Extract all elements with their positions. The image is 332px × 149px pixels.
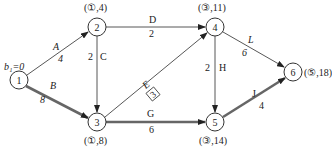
node-2: 2: [88, 18, 106, 36]
node-3-label: (①,8): [84, 135, 107, 147]
edge-C-weight: 2: [88, 51, 93, 62]
svg-text:1: 1: [17, 75, 22, 86]
edge-L-name: L: [247, 34, 254, 45]
svg-text:4: 4: [213, 22, 218, 33]
node-5-label: (③,14): [199, 135, 227, 147]
edge-G-weight: 6: [149, 124, 154, 135]
node-6: 6: [284, 63, 302, 81]
svg-text:5: 5: [213, 117, 218, 128]
edge-D-weight: 2: [149, 28, 154, 39]
edge-H-name: H: [219, 62, 226, 73]
node-4-label: (③,11): [198, 2, 226, 14]
edge-E: [105, 33, 207, 117]
edge-A-name: A: [52, 41, 60, 52]
node-3: 3: [88, 113, 106, 131]
svg-text:2: 2: [95, 22, 100, 33]
edge-H-weight: 2: [205, 62, 210, 73]
edge-B-name: B: [50, 80, 56, 91]
start-label: b₁=0: [4, 61, 24, 72]
node-4: 4: [206, 18, 224, 36]
node-2-label: (①,4): [84, 2, 107, 14]
node-5: 5: [206, 113, 224, 131]
edge-C-name: C: [100, 51, 107, 62]
node-6-label: (⑤,18): [304, 67, 332, 79]
node-1: 1: [10, 71, 28, 89]
svg-text:6: 6: [291, 67, 296, 78]
edge-L-weight: 6: [242, 47, 247, 58]
edge-B: [26, 86, 88, 118]
edge-J-name: J: [252, 88, 256, 99]
svg-text:3: 3: [95, 117, 100, 128]
edge-J-weight: 4: [259, 100, 264, 111]
edge-B-weight: 8: [40, 94, 45, 105]
edge-D-name: D: [149, 14, 156, 25]
edge-G-name: G: [147, 108, 154, 119]
edge-A-weight: 4: [58, 53, 63, 64]
network-diagram: A 4 B 8 2 C D 2 E 3 G 6 2 H L 6 J 4 b₁=0…: [0, 0, 332, 149]
